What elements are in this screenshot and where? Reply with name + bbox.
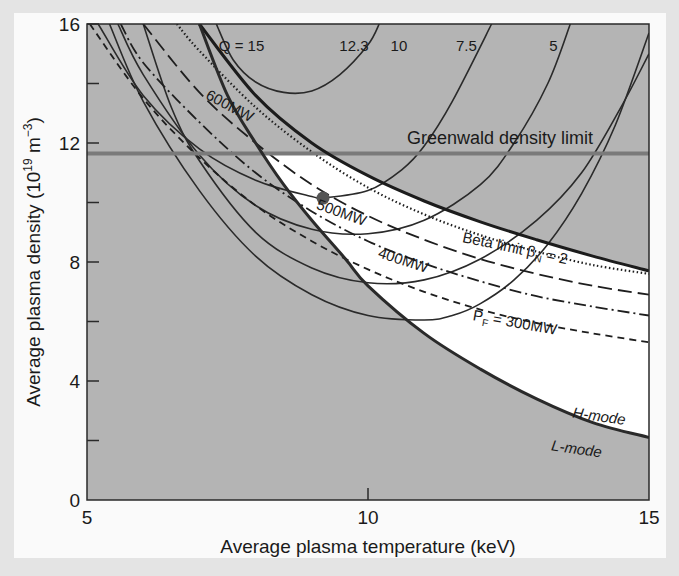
x-tick-label: 15 <box>638 507 659 528</box>
y-tick-label: 8 <box>69 252 80 273</box>
x-axis-label: Average plasma temperature (keV) <box>220 536 515 557</box>
annotation-7-5: 7.5 <box>456 37 477 54</box>
y-tick-label: 16 <box>59 14 80 35</box>
annotation-5: 5 <box>549 37 557 54</box>
x-tick-label: 5 <box>82 507 93 528</box>
annotation-greenwald-density-limit: Greenwald density limit <box>407 128 593 148</box>
y-tick-label: 0 <box>69 490 80 511</box>
annotation-12-3: 12.3 <box>339 37 368 54</box>
x-tick-label: 10 <box>357 507 378 528</box>
y-tick-label: 12 <box>59 133 80 154</box>
annotation-q-15: Q = 15 <box>219 37 264 54</box>
annotation-10: 10 <box>391 37 408 54</box>
plasma-operating-space-chart: 0481216 51015 Q = 1512.3107.55600MW500MW… <box>0 0 679 576</box>
y-axis-label: Average plasma density (1019 m−3) <box>21 117 44 407</box>
y-tick-label: 4 <box>69 371 80 392</box>
